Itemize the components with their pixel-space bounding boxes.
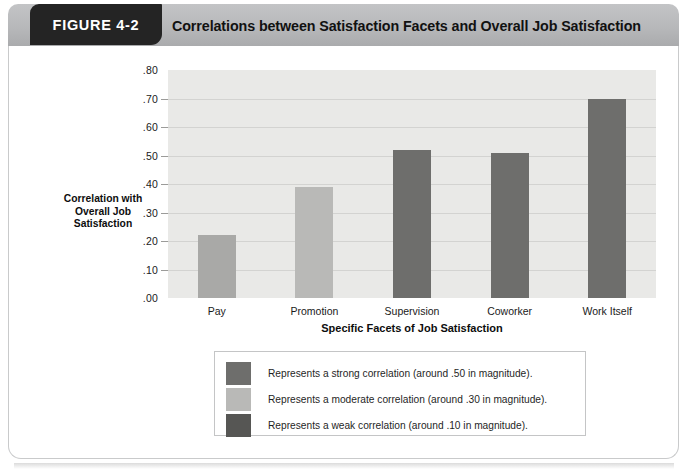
y-axis-title: Correlation withOverall JobSatisfaction: [49, 193, 157, 231]
legend-item: Represents a moderate correlation (aroun…: [226, 387, 577, 411]
plot-area: .00.10.20.30.40.50.60.70.80PayPromotionS…: [168, 70, 656, 298]
legend-swatch: [226, 414, 251, 437]
figure-body: Correlation withOverall JobSatisfaction …: [8, 46, 679, 459]
y-axis-tick: [161, 127, 168, 128]
legend-box: Represents a strong correlation (around …: [214, 351, 586, 436]
y-axis-tick-label: .40: [143, 178, 158, 190]
figure-number-tab: FIGURE 4-2: [30, 4, 162, 45]
y-axis-tick-label: .20: [143, 235, 158, 247]
legend-swatch: [226, 388, 251, 411]
bar-promotion: [295, 187, 333, 298]
y-axis-tick: [161, 156, 168, 157]
legend-label: Represents a strong correlation (around …: [268, 368, 532, 379]
x-axis-tick-label: Promotion: [290, 305, 338, 317]
y-axis-tick: [161, 270, 168, 271]
y-axis-tick-label: .70: [143, 93, 158, 105]
y-axis-tick: [161, 99, 168, 100]
bar-pay: [198, 235, 236, 298]
figure-number-label: FIGURE 4-2: [53, 17, 140, 33]
bar-coworker: [491, 153, 529, 298]
y-axis-tick-label: .10: [143, 264, 158, 276]
legend-item: Represents a strong correlation (around …: [226, 361, 577, 385]
x-axis-title: Specific Facets of Job Satisfaction: [168, 322, 656, 334]
page-edge-shadow: [14, 463, 674, 469]
figure-title: Correlations between Satisfaction Facets…: [172, 4, 665, 47]
gridline: [168, 127, 656, 128]
bar-supervision: [393, 150, 431, 298]
figure-header-banner: FIGURE 4-2 Correlations between Satisfac…: [8, 4, 679, 47]
x-axis-tick-label: Pay: [208, 305, 226, 317]
legend-label: Represents a weak correlation (around .1…: [268, 420, 528, 431]
y-axis-tick: [161, 213, 168, 214]
legend-label: Represents a moderate correlation (aroun…: [268, 394, 547, 405]
y-axis-tick-label: .80: [143, 64, 158, 76]
bar-work-itself: [588, 99, 626, 299]
y-axis-tick-label: .00: [143, 292, 158, 304]
y-axis-title-line-1: Overall Job: [49, 206, 157, 219]
gridline: [168, 99, 656, 100]
y-axis-tick-label: .50: [143, 150, 158, 162]
y-axis-tick-label: .30: [143, 207, 158, 219]
x-axis-tick-label: Work Itself: [582, 305, 631, 317]
legend-swatch: [226, 362, 251, 385]
y-axis-tick: [161, 241, 168, 242]
legend-item: Represents a weak correlation (around .1…: [226, 413, 577, 437]
y-axis-title-line-0: Correlation with: [49, 193, 157, 206]
bar-chart: Correlation withOverall JobSatisfaction …: [9, 46, 680, 346]
y-axis-title-line-2: Satisfaction: [49, 218, 157, 231]
x-axis-tick-label: Coworker: [487, 305, 532, 317]
y-axis-tick-label: .60: [143, 121, 158, 133]
figure-card: FIGURE 4-2 Correlations between Satisfac…: [8, 4, 679, 459]
y-axis-tick: [161, 184, 168, 185]
x-axis-tick-label: Supervision: [385, 305, 440, 317]
